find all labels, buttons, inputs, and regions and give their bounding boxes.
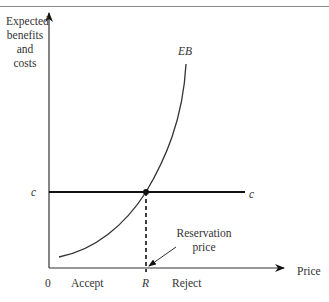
y-label-line: Expected [6,14,44,28]
origin-label: 0 [45,276,51,290]
accept-label: Accept [71,276,104,290]
diagram-canvas [0,0,329,302]
eb-label: EB [178,44,192,58]
intersection-point [143,189,149,195]
eb-curve [59,64,186,257]
r-label: R [142,276,149,290]
y-label-line: costs [6,56,44,70]
x-axis-label: Price [297,264,321,278]
annotation-line: Reservation [169,226,239,240]
y-label-line: and [6,42,44,56]
reject-label: Reject [172,276,201,290]
y-label-line: benefits [6,28,44,42]
cost-label-right: c [249,187,254,201]
cost-label-left: c [31,185,36,199]
y-axis-label: Expected benefits and costs [6,14,44,70]
annotation-line: price [169,240,239,254]
reservation-price-annotation: Reservation price [169,226,239,254]
